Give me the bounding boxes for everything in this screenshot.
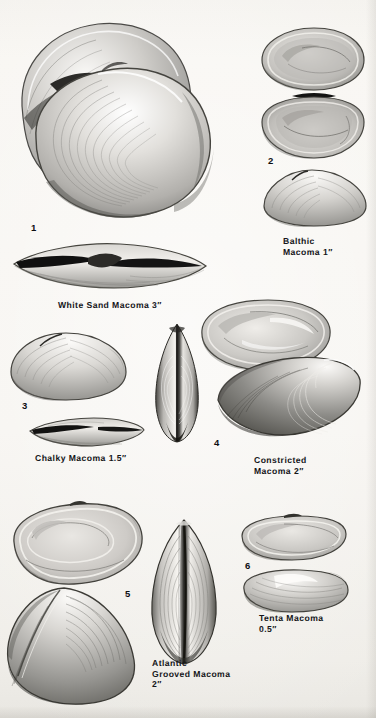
figure-2-balthic-lower-valve	[258, 92, 368, 162]
caption-white-sand-macoma: White Sand Macoma 3″	[58, 300, 162, 311]
figure-6-tenta-interior-valve	[238, 512, 350, 564]
figure-3-chalky-exterior-valve	[8, 330, 130, 404]
figure-1-white-sand-macoma	[6, 14, 218, 224]
figure-number-1: 1	[31, 222, 36, 233]
caption-tenta-macoma: Tenta Macoma 0.5″	[259, 613, 323, 634]
caption-balthic-macoma: Balthic Macoma 1″	[283, 236, 333, 257]
figure-5-atlantic-exterior-valve	[2, 584, 138, 708]
figure-2-balthic-upper-valve	[258, 24, 368, 94]
illustration-plate: 1 Whi	[0, 0, 376, 718]
figure-number-3: 3	[22, 400, 27, 411]
figure-1-hinge-view	[10, 240, 210, 292]
caption-chalky-macoma: Chalky Macoma 1.5″	[35, 453, 127, 464]
caption-constricted-macoma: Constricted Macoma 2″	[254, 455, 307, 476]
figure-number-2: 2	[268, 155, 273, 166]
figure-3-chalky-hinge-view	[28, 414, 146, 448]
figure-2-balthic-exterior-valve	[262, 168, 370, 228]
figure-5-atlantic-interior-valve	[8, 498, 144, 590]
caption-atlantic-grooved-macoma: Atlantic Grooved Macoma 2″	[152, 658, 230, 690]
figure-4-constricted-exterior-valve	[216, 352, 362, 440]
figure-5-atlantic-ventral-grooved-view	[148, 518, 220, 666]
shell-front-valve	[36, 68, 214, 218]
figure-6-tenta-exterior-valve	[240, 566, 352, 616]
figure-4-constricted-end-view	[148, 322, 206, 444]
figure-number-4: 4	[214, 437, 219, 448]
